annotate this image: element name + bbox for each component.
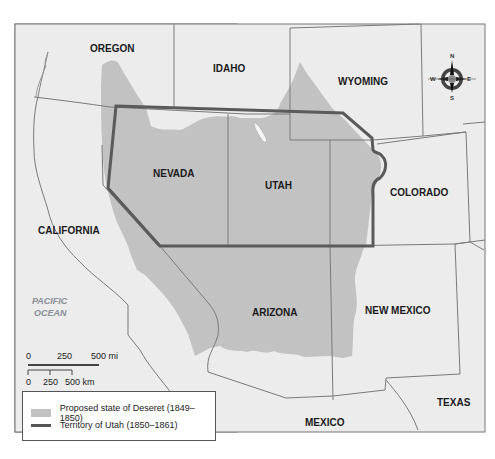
label-utah: UTAH — [265, 180, 292, 191]
label-new-mexico: NEW MEXICO — [365, 305, 431, 316]
legend-label-utah-territory: Territory of Utah (1850–1861) — [60, 420, 178, 430]
legend: Proposed state of Deseret (1849–1850) Te… — [22, 391, 216, 441]
ocean-label-line2: OCEAN — [34, 308, 67, 318]
scale-mi-0: 0 — [26, 351, 31, 361]
scale-mi-250: 250 — [57, 351, 72, 361]
label-nevada: NEVADA — [153, 168, 194, 179]
label-arizona: ARIZONA — [252, 307, 298, 318]
scale-km-0: 0 — [26, 377, 31, 387]
label-idaho: IDAHO — [213, 63, 245, 74]
legend-item-utah-territory: Territory of Utah (1850–1861) — [31, 420, 178, 430]
label-mexico: MEXICO — [305, 417, 345, 428]
scale-mi-500: 500 mi — [91, 351, 118, 361]
scale-km-250: 250 — [43, 377, 58, 387]
compass-s: S — [450, 95, 454, 101]
compass-e: E — [467, 76, 471, 82]
scale-km-500: 500 km — [65, 377, 95, 387]
compass-w: W — [430, 76, 436, 82]
compass-n: N — [450, 53, 454, 59]
territory-line-swatch-icon — [31, 424, 51, 427]
deseret-fill-swatch-icon — [31, 409, 51, 417]
ocean-label-line1: PACIFIC — [32, 296, 68, 306]
label-texas: TEXAS — [437, 397, 471, 408]
label-wyoming: WYOMING — [338, 76, 388, 87]
label-colorado: COLORADO — [390, 187, 449, 198]
label-oregon: OREGON — [90, 43, 134, 54]
label-california: CALIFORNIA — [38, 225, 100, 236]
